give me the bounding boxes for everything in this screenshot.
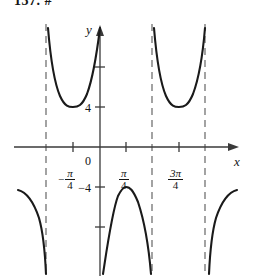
numerator: π [65,168,75,179]
y-tick-label-minus-4: −4 [78,181,91,195]
y-tick-label-4: 4 [85,101,91,115]
figure-container: 137. # y x 0 [0,0,256,276]
curve-branch-lower-left [18,190,46,274]
x-tick-label-pi-over-4: π 4 [119,168,129,192]
denominator: 4 [65,179,75,191]
curve-branch-lower-middle [103,187,151,274]
origin-label: 0 [85,154,91,168]
curve-branch-lower-right [209,190,237,274]
x-axis-label: x [233,154,240,169]
denominator: 4 [168,179,183,191]
numerator: π [119,168,129,179]
numerator: 3π [168,168,183,179]
x-tick-label-minus-pi-over-4: − π 4 [58,168,75,192]
y-axis-label: y [84,22,92,37]
minus-sign: − [58,174,65,185]
curve-branch-upper-right [154,28,205,107]
x-axis-arrowhead [228,143,239,151]
graph-canvas: y x 0 4 −4 [0,0,256,276]
curve-branch-upper-left [48,28,100,107]
x-tick-label-3pi-over-4: 3π 4 [168,168,183,192]
denominator: 4 [119,179,129,191]
